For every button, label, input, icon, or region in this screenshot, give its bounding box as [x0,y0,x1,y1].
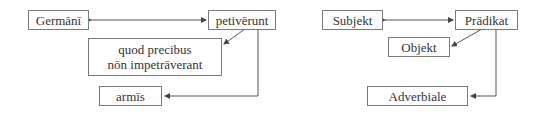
node-label-line1: quod precibus [118,42,191,57]
node-predicate-german: Prädikat [455,10,518,30]
node-clause-latin: quod precibus nōn impetrāverant [88,38,222,76]
node-subject-latin: Germānī [28,10,89,30]
node-label: petivērunt [216,13,269,28]
node-label: Adverbiale [389,89,447,104]
node-label: armīs [116,89,145,104]
node-subject-german: Subjekt [322,10,383,30]
node-label: Prädikat [465,13,508,28]
node-label: Germānī [36,13,81,28]
node-adverbial-latin: armīs [99,86,162,106]
node-label-line2: nōn impetrāverant [108,57,203,72]
praedikat-objekt-arrow [452,29,482,46]
praedikat-adverbiale-arrow [471,30,496,96]
node-label: Subjekt [333,13,373,28]
predicate-clause-arrow [224,29,245,44]
node-predicate-latin: petivērunt [208,10,276,30]
node-object-german: Objekt [388,37,450,57]
node-label: Objekt [401,40,436,55]
sentence-diagram: Germānī petivērunt quod precibus nōn imp… [0,0,543,114]
node-adverbial-german: Adverbiale [367,86,468,106]
